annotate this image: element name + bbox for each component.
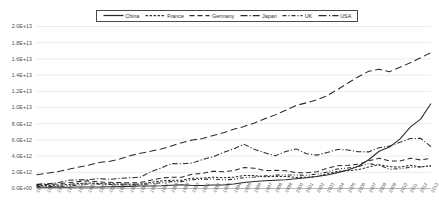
legend-label: Japan bbox=[262, 13, 277, 19]
legend-swatch-france bbox=[145, 12, 166, 19]
series-line-usa bbox=[37, 53, 432, 175]
legend-swatch-usa bbox=[318, 12, 339, 19]
y-axis-tick-label: 1.2E+13 bbox=[0, 88, 32, 94]
y-axis-tick-label: 1.6E+13 bbox=[0, 56, 32, 62]
legend-swatch-japan bbox=[240, 12, 261, 19]
legend-item-japan: Japan bbox=[240, 12, 277, 19]
chart-legend: ChinaFranceGermanyJapanUKUSA bbox=[96, 10, 358, 23]
legend-item-uk: UK bbox=[282, 12, 312, 19]
series-line-germany bbox=[37, 158, 432, 184]
legend-label: France bbox=[167, 13, 184, 19]
y-axis-tick-label: 1.8E+13 bbox=[0, 40, 32, 46]
legend-swatch-germany bbox=[189, 12, 210, 19]
series-lines bbox=[37, 53, 432, 188]
legend-item-usa: USA bbox=[318, 12, 352, 19]
legend-label: UK bbox=[305, 13, 313, 19]
legend-item-germany: Germany bbox=[189, 12, 234, 19]
y-axis-tick-label: 6.0E+12 bbox=[0, 137, 32, 143]
y-axis-tick-label: 4.0E+12 bbox=[0, 153, 32, 159]
y-axis-tick-label: 2.0E+12 bbox=[0, 169, 32, 175]
legend-item-france: France bbox=[145, 12, 184, 19]
y-axis-tick-label: 1.4E+13 bbox=[0, 72, 32, 78]
y-axis-tick-label: 8.0E+12 bbox=[0, 121, 32, 127]
y-axis-tick-label: 2.0E+13 bbox=[0, 23, 32, 29]
legend-swatch-uk bbox=[282, 12, 303, 19]
legend-label: USA bbox=[340, 13, 351, 19]
legend-swatch-china bbox=[103, 12, 124, 19]
y-axis-tick-label: 1.0E+13 bbox=[0, 104, 32, 110]
series-line-china bbox=[37, 103, 432, 187]
legend-label: China bbox=[125, 13, 139, 19]
legend-item-china: China bbox=[103, 12, 140, 19]
legend-label: Germany bbox=[212, 13, 234, 19]
y-axis-tick-label: 0.0E+00 bbox=[0, 185, 32, 191]
